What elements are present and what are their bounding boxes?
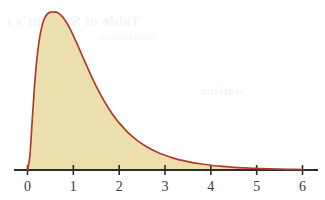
x-axis-tick-label: 1 — [70, 179, 77, 194]
x-axis-tick-label: 0 — [24, 179, 31, 194]
curve-area-fill — [28, 12, 303, 170]
x-axis-tick-label: 6 — [299, 179, 306, 194]
x-axis-tick-label: 5 — [253, 179, 260, 194]
density-chart: 0123456 — [0, 0, 325, 200]
chart-area: 0123456 — [14, 12, 318, 194]
x-axis-tick-label: 2 — [116, 179, 123, 194]
x-axis-tick-label: 3 — [162, 179, 169, 194]
x-axis-tick-label: 4 — [207, 179, 214, 194]
x-axis-tick-labels: 0123456 — [24, 179, 306, 194]
